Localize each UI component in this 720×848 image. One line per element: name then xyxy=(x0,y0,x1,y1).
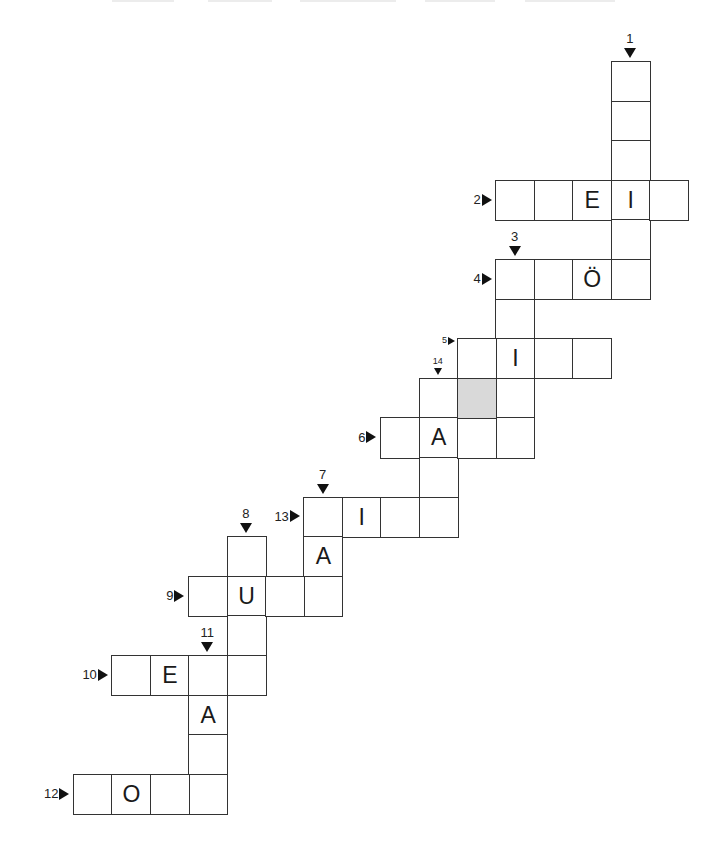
clue-number: 2 xyxy=(473,193,480,206)
crossword-cell[interactable]: I xyxy=(342,497,382,538)
clue-number: 8 xyxy=(242,507,249,520)
arrow-down-icon xyxy=(434,368,442,375)
clue-number: 10 xyxy=(82,668,96,681)
clue-number: 7 xyxy=(319,468,326,481)
crossword-cell[interactable] xyxy=(419,378,459,419)
clue-number: 13 xyxy=(274,510,288,523)
crossword-cell[interactable]: E xyxy=(572,180,612,221)
crossword-cell[interactable] xyxy=(188,576,228,617)
crossword-cell[interactable] xyxy=(380,497,420,538)
crossword-cell[interactable] xyxy=(188,655,228,696)
crossword-cell[interactable] xyxy=(227,536,267,577)
crossword-cell[interactable] xyxy=(611,259,651,300)
crossword-cell[interactable] xyxy=(150,774,190,815)
given-letter: E xyxy=(585,187,600,214)
clue-number-across-12: 12 xyxy=(44,787,69,800)
arrow-right-icon xyxy=(482,273,492,285)
arrow-down-icon xyxy=(624,48,636,58)
given-letter: U xyxy=(238,583,255,610)
clue-number: 5 xyxy=(442,336,447,345)
clue-number: 6 xyxy=(358,431,365,444)
crossword-cell[interactable] xyxy=(419,497,459,538)
arrow-right-icon xyxy=(174,590,184,602)
clue-number-down-8: 8 xyxy=(240,507,252,533)
crossword-cell[interactable] xyxy=(534,259,574,300)
given-letter: A xyxy=(316,543,331,570)
crossword-cell[interactable] xyxy=(495,180,535,221)
given-letter: I xyxy=(512,345,518,372)
crossword-cell[interactable] xyxy=(188,734,228,775)
clue-number-down-11: 11 xyxy=(200,626,214,652)
clue-number-down-7: 7 xyxy=(317,468,329,494)
clue-number-down-14: 14 xyxy=(433,357,443,375)
crossword-cell[interactable]: U xyxy=(227,576,267,617)
crossword-cell[interactable] xyxy=(611,61,651,102)
arrow-right-icon xyxy=(290,510,300,522)
clue-number-across-2: 2 xyxy=(473,193,491,206)
arrow-right-icon xyxy=(482,194,492,206)
clue-number-across-10: 10 xyxy=(82,668,107,681)
clue-number: 14 xyxy=(433,357,443,366)
crossword-cell[interactable] xyxy=(495,378,535,419)
crossword-cell[interactable] xyxy=(227,615,267,656)
crossword-cell[interactable]: E xyxy=(150,655,190,696)
crossword-cell[interactable]: A xyxy=(188,695,228,736)
crossword-cell[interactable]: I xyxy=(495,338,535,379)
crossword-cell[interactable] xyxy=(380,417,420,458)
given-letter: I xyxy=(627,187,633,214)
arrow-right-icon xyxy=(98,669,108,681)
crossword-cell[interactable] xyxy=(649,180,689,221)
clue-number-down-1: 1 xyxy=(624,32,636,58)
crossword-cell[interactable] xyxy=(303,497,343,538)
shaded-cell xyxy=(457,378,497,419)
arrow-right-icon xyxy=(59,788,69,800)
crossword-cell[interactable] xyxy=(419,457,459,498)
crossword-cell[interactable] xyxy=(495,417,535,458)
clue-number-across-5: 5 xyxy=(442,336,455,345)
arrow-right-icon xyxy=(448,337,455,345)
crossword-cell[interactable]: O xyxy=(111,774,151,815)
given-letter: Ö xyxy=(583,266,601,293)
crossword-cell[interactable] xyxy=(534,338,574,379)
clue-number-across-6: 6 xyxy=(358,431,376,444)
arrow-down-icon xyxy=(317,484,329,494)
crossword-cell[interactable] xyxy=(611,101,651,142)
crossword-cell[interactable] xyxy=(73,774,113,815)
clue-number: 1 xyxy=(626,32,633,45)
crossword-grid: IEIÖAIAUEAO1234514613789101112 xyxy=(0,0,720,848)
arrow-right-icon xyxy=(366,431,376,443)
given-letter: A xyxy=(431,424,446,451)
crossword-cell[interactable] xyxy=(495,259,535,300)
arrow-down-icon xyxy=(201,642,213,652)
crossword-cell[interactable] xyxy=(265,576,305,617)
crossword-cell[interactable]: A xyxy=(303,536,343,577)
crossword-cell[interactable] xyxy=(611,140,651,181)
clue-number-across-4: 4 xyxy=(473,272,491,285)
crossword-cell[interactable]: A xyxy=(419,417,459,458)
given-letter: O xyxy=(122,781,140,808)
crossword-cell[interactable]: Ö xyxy=(572,259,612,300)
arrow-down-icon xyxy=(509,246,521,256)
crossword-cell[interactable] xyxy=(457,338,497,379)
clue-number: 4 xyxy=(473,272,480,285)
given-letter: I xyxy=(359,504,365,531)
given-letter: A xyxy=(201,702,216,729)
clue-number-down-3: 3 xyxy=(509,230,521,256)
crossword-cell[interactable] xyxy=(227,655,267,696)
clue-number: 11 xyxy=(200,626,214,639)
crossword-cell[interactable] xyxy=(534,180,574,221)
crossword-cell[interactable] xyxy=(188,774,228,815)
clue-number: 9 xyxy=(166,589,173,602)
crossword-cell[interactable] xyxy=(111,655,151,696)
clue-number: 3 xyxy=(511,230,518,243)
given-letter: E xyxy=(162,662,177,689)
crossword-cell[interactable] xyxy=(495,299,535,340)
crossword-cell[interactable]: I xyxy=(611,180,651,221)
clue-number: 12 xyxy=(44,787,58,800)
clue-number-across-9: 9 xyxy=(166,589,184,602)
crossword-cell[interactable] xyxy=(457,417,497,458)
clue-number-across-13: 13 xyxy=(274,510,299,523)
crossword-cell[interactable] xyxy=(303,576,343,617)
crossword-cell[interactable] xyxy=(611,219,651,260)
crossword-cell[interactable] xyxy=(572,338,612,379)
